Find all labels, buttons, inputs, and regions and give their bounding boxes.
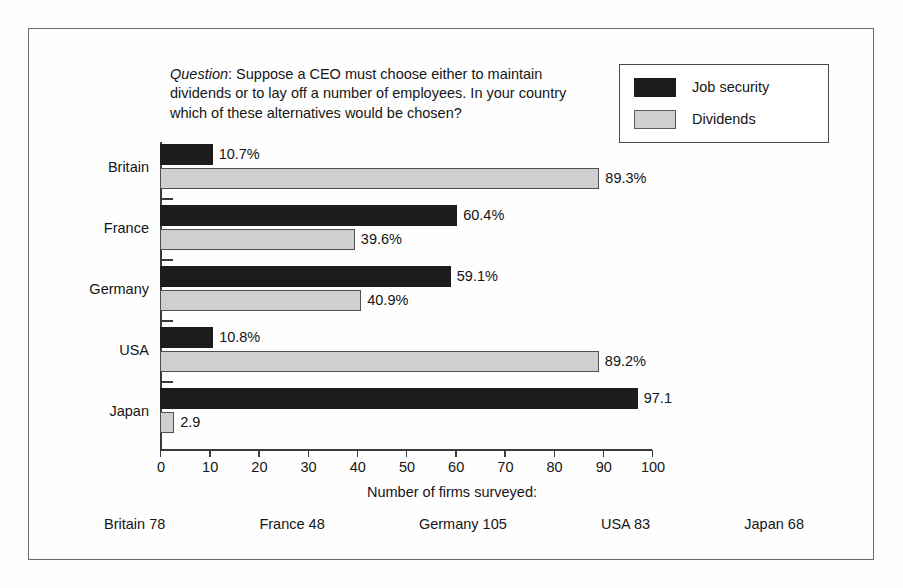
bar-usa-dividends: [160, 351, 599, 372]
x-axis-tick-label: 20: [251, 459, 267, 475]
bar-value-label: 89.3%: [605, 168, 646, 189]
bar-france-dividends: [160, 229, 355, 250]
x-axis-tick-label: 30: [301, 459, 317, 475]
category-label-germany: Germany: [39, 281, 149, 297]
x-axis-tick-label: 50: [399, 459, 415, 475]
x-axis-tick: [652, 450, 653, 457]
category-label-japan: Japan: [39, 403, 149, 419]
footer-count-item: Britain 78: [104, 516, 165, 532]
chart-frame: Question: Suppose a CEO must choose eith…: [28, 28, 874, 560]
footer-count-item: USA 83: [601, 516, 650, 532]
bar-value-label: 60.4%: [463, 205, 504, 226]
x-axis-tick-label: 40: [350, 459, 366, 475]
bar-germany-job-security: [160, 266, 451, 287]
group-separator-tick: [161, 198, 173, 200]
bar-chart-plot: 0102030405060708090100 Britain10.7%89.3%…: [29, 29, 875, 561]
footer-count-item: Germany 105: [419, 516, 507, 532]
bar-value-label: 89.2%: [605, 351, 646, 372]
category-label-france: France: [39, 220, 149, 236]
x-axis-tick: [455, 450, 456, 457]
x-axis-tick-label: 100: [641, 459, 665, 475]
x-axis-tick-label: 0: [157, 459, 165, 475]
bar-value-label: 97.1: [644, 388, 672, 409]
x-axis-tick-label: 90: [596, 459, 612, 475]
category-label-usa: USA: [39, 342, 149, 358]
x-axis-tick: [209, 450, 210, 457]
category-label-britain: Britain: [39, 159, 149, 175]
group-separator-tick: [161, 381, 173, 383]
x-axis-tick-label: 70: [497, 459, 513, 475]
x-axis-tick: [603, 450, 604, 457]
x-axis-tick: [160, 450, 161, 457]
bar-japan-job-security: [160, 388, 638, 409]
x-axis-tick: [308, 450, 309, 457]
x-axis-tick-label: 80: [547, 459, 563, 475]
bar-britain-job-security: [160, 144, 213, 165]
footer-counts: Britain 78France 48Germany 105USA 83Japa…: [104, 516, 804, 532]
x-axis-tick-label: 60: [448, 459, 464, 475]
bar-britain-dividends: [160, 168, 599, 189]
bar-value-label: 40.9%: [367, 290, 408, 311]
bar-value-label: 39.6%: [361, 229, 402, 250]
x-axis-tick: [357, 450, 358, 457]
bar-value-label: 59.1%: [457, 266, 498, 287]
footer-count-item: France 48: [259, 516, 324, 532]
bar-germany-dividends: [160, 290, 361, 311]
x-axis-tick: [504, 450, 505, 457]
bar-value-label: 10.7%: [219, 144, 260, 165]
bar-france-job-security: [160, 205, 457, 226]
bar-usa-job-security: [160, 327, 213, 348]
x-axis-tick: [406, 450, 407, 457]
bar-value-label: 10.8%: [219, 327, 260, 348]
x-axis-tick: [554, 450, 555, 457]
footer-count-item: Japan 68: [744, 516, 804, 532]
footer-title: Number of firms surveyed:: [29, 484, 875, 500]
x-axis-tick-label: 10: [202, 459, 218, 475]
bar-japan-dividends: [160, 412, 174, 433]
group-separator-tick: [161, 320, 173, 322]
bar-value-label: 2.9: [180, 412, 200, 433]
group-separator-tick: [161, 259, 173, 261]
x-axis-tick: [258, 450, 259, 457]
